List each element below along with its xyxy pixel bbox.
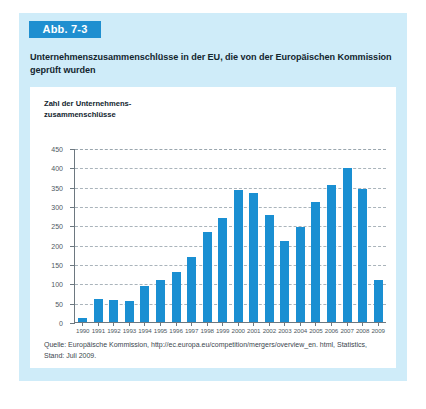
y-axis-tick: 400: [70, 168, 74, 169]
x-axis-tick-label: 2009: [370, 327, 386, 334]
bar: [374, 280, 383, 323]
x-axis-tick-slot: [91, 323, 107, 326]
y-axis-tick-label: 100: [51, 281, 63, 288]
bar: [327, 185, 336, 323]
x-axis-tick-slot: [262, 323, 278, 326]
x-axis-tick-label: 1995: [153, 327, 169, 334]
x-axis-tick-label: 2007: [339, 327, 355, 334]
bar-slot: [370, 149, 386, 323]
bar-series: [75, 149, 386, 323]
bar-slot: [308, 149, 324, 323]
bar: [94, 299, 103, 323]
bar: [311, 202, 320, 323]
x-axis-tick: [207, 323, 208, 326]
x-axis-tick: [253, 323, 254, 326]
bar-slot: [262, 149, 278, 323]
x-axis-tick-slot: [308, 323, 324, 326]
x-axis-tick-label: 2004: [293, 327, 309, 334]
bar: [280, 241, 289, 323]
x-axis-tick: [129, 323, 130, 326]
x-axis-tick: [331, 323, 332, 326]
bar-slot: [137, 149, 153, 323]
x-axis-tick-label: 2006: [324, 327, 340, 334]
x-axis-tick: [269, 323, 270, 326]
x-axis-tick-label: 1991: [91, 327, 107, 334]
x-axis-tick-slot: [215, 323, 231, 326]
x-axis-tick-label: 1994: [137, 327, 153, 334]
x-axis-tick-label: 1993: [122, 327, 138, 334]
y-axis-tick-label: 450: [51, 146, 63, 153]
plot-area: [75, 149, 386, 323]
y-axis-tick-label: 50: [55, 300, 63, 307]
y-axis-tick: 250: [70, 226, 74, 227]
bar-slot: [293, 149, 309, 323]
x-axis-tick-slot: [246, 323, 262, 326]
bar-slot: [339, 149, 355, 323]
x-axis-tick: [222, 323, 223, 326]
x-axis-tick-label: 1998: [199, 327, 215, 334]
x-axis-tick-slot: [75, 323, 91, 326]
bar: [140, 286, 149, 323]
x-axis-tick-label: 2003: [277, 327, 293, 334]
x-axis-tick-slot: [184, 323, 200, 326]
y-axis-tick: 50: [70, 304, 74, 305]
bar-slot: [184, 149, 200, 323]
bar-slot: [199, 149, 215, 323]
x-axis-tick-label: 1997: [184, 327, 200, 334]
x-axis-tick-label: 2008: [355, 327, 371, 334]
bar: [109, 300, 118, 323]
x-axis-tick: [160, 323, 161, 326]
x-axis-tick-slot: [277, 323, 293, 326]
x-axis-tick: [191, 323, 192, 326]
x-axis-tick: [378, 323, 379, 326]
x-axis-tick-label: 2000: [230, 327, 246, 334]
bar-slot: [355, 149, 371, 323]
y-axis-tick-label: 200: [51, 242, 63, 249]
x-axis-tick-slot: [168, 323, 184, 326]
bar: [265, 215, 274, 323]
bar-slot: [168, 149, 184, 323]
x-axis-tick-slot: [137, 323, 153, 326]
x-axis-ticks: [75, 323, 386, 326]
x-axis-tick: [362, 323, 363, 326]
x-axis-tick: [315, 323, 316, 326]
y-axis-tick: 100: [70, 284, 74, 285]
x-axis-tick-label: 1996: [168, 327, 184, 334]
y-axis-tick: 200: [70, 246, 74, 247]
x-axis-tick: [98, 323, 99, 326]
x-axis-tick: [176, 323, 177, 326]
x-axis-tick-slot: [355, 323, 371, 326]
figure-panel: Abb. 7-3 Unternehmenszusammenschlüsse in…: [19, 13, 407, 381]
y-axis-tick: 150: [70, 265, 74, 266]
bar: [296, 227, 305, 323]
bar: [234, 190, 243, 323]
y-axis-tick-label: 150: [51, 262, 63, 269]
y-axis-tick: 0: [70, 323, 74, 324]
x-axis-tick-slot: [370, 323, 386, 326]
x-axis-tick-slot: [199, 323, 215, 326]
x-axis-tick-slot: [106, 323, 122, 326]
bar: [203, 232, 212, 323]
x-axis-tick-slot: [293, 323, 309, 326]
y-axis-tick-label: 0: [59, 320, 63, 327]
x-axis-tick: [238, 323, 239, 326]
x-axis-tick: [113, 323, 114, 326]
y-axis-tick-label: 350: [51, 184, 63, 191]
bar-slot: [122, 149, 138, 323]
x-axis-tick: [300, 323, 301, 326]
bar-slot: [215, 149, 231, 323]
y-axis-tick-label: 250: [51, 223, 63, 230]
y-axis-tick-label: 300: [51, 204, 63, 211]
x-axis-tick-label: 1990: [75, 327, 91, 334]
bar: [156, 280, 165, 323]
y-axis-tick-label: 400: [51, 165, 63, 172]
bar-slot: [75, 149, 91, 323]
bar: [172, 272, 181, 323]
bar: [249, 193, 258, 323]
source-note: Quelle: Europäische Kommission, http://e…: [44, 340, 384, 362]
bar: [125, 301, 134, 323]
y-axis-caption: Zahl der Unternehmens- zusammenschlüsse: [44, 98, 131, 121]
x-axis-tick-slot: [339, 323, 355, 326]
bar-slot: [277, 149, 293, 323]
x-axis-tick-label: 1992: [106, 327, 122, 334]
